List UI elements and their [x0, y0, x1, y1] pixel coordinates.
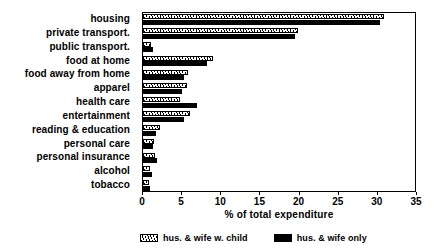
x-tick-label: 0: [139, 196, 145, 207]
bar-group: [143, 138, 415, 152]
x-tick-label: 30: [371, 196, 382, 207]
bar-solid: [143, 158, 157, 163]
category-label: personal care: [0, 137, 136, 151]
bar-solid: [143, 144, 153, 149]
bar-group: [143, 165, 415, 179]
x-tick: [377, 192, 378, 195]
legend-swatch-solid: [274, 234, 292, 242]
bar-hatched: [143, 28, 298, 33]
x-tick: [338, 192, 339, 195]
bar-hatched: [143, 42, 151, 47]
x-tick: [181, 192, 182, 195]
legend-label-hatched: hus. & wife w. child: [163, 233, 248, 243]
bar-solid: [143, 20, 380, 25]
bar-group: [143, 41, 415, 55]
category-label: entertainment: [0, 109, 136, 123]
bar-hatched: [143, 97, 180, 102]
category-label: tobacco: [0, 178, 136, 192]
chart-legend: hus. & wife w. child hus. & wife only: [140, 231, 420, 245]
legend-entry-hus-wife-only: hus. & wife only: [274, 233, 367, 243]
legend-entry-hus-wife-w-child: hus. & wife w. child: [140, 233, 248, 243]
bar-hatched: [143, 56, 213, 61]
bar-solid: [143, 34, 295, 39]
x-axis: 05101520253035: [142, 192, 416, 198]
x-axis-title: % of total expenditure: [142, 209, 416, 220]
expenditure-bar-chart: housingprivate transport.public transpor…: [0, 0, 434, 251]
bar-hatched: [143, 180, 149, 185]
bar-group: [143, 179, 415, 193]
bar-group: [143, 68, 415, 82]
bar-group: [143, 27, 415, 41]
x-tick: [142, 192, 143, 195]
bar-group: [143, 55, 415, 69]
bar-solid: [143, 103, 197, 108]
bar-solid: [143, 172, 152, 177]
x-tick-label: 35: [410, 196, 421, 207]
bar-hatched: [143, 166, 150, 171]
x-tick-label: 5: [178, 196, 184, 207]
category-label: alcohol: [0, 164, 136, 178]
bar-group: [143, 96, 415, 110]
plot-area: [142, 12, 416, 192]
x-tick: [259, 192, 260, 195]
bar-solid: [143, 186, 150, 191]
category-axis: housingprivate transport.public transpor…: [0, 12, 136, 192]
bar-hatched: [143, 14, 384, 19]
bar-hatched: [143, 70, 188, 75]
category-label: food at home: [0, 54, 136, 68]
bar-solid: [143, 75, 184, 80]
bar-hatched: [143, 125, 160, 130]
bar-hatched: [143, 83, 187, 88]
bar-hatched: [143, 153, 155, 158]
x-tick-label: 10: [215, 196, 226, 207]
bar-solid: [143, 89, 182, 94]
category-label: reading & education: [0, 123, 136, 137]
legend-label-solid: hus. & wife only: [297, 233, 367, 243]
bar-hatched: [143, 139, 154, 144]
bar-group: [143, 82, 415, 96]
category-label: health care: [0, 95, 136, 109]
category-label: private transport.: [0, 26, 136, 40]
category-label: personal insurance: [0, 150, 136, 164]
bar-hatched: [143, 111, 190, 116]
x-tick-label: 15: [254, 196, 265, 207]
bar-solid: [143, 47, 153, 52]
bar-solid: [143, 61, 207, 66]
bar-solid: [143, 117, 184, 122]
x-tick-label: 25: [332, 196, 343, 207]
bar-group: [143, 151, 415, 165]
bar-group: [143, 124, 415, 138]
category-label: public transport.: [0, 40, 136, 54]
x-tick: [220, 192, 221, 195]
x-tick: [299, 192, 300, 195]
bars-layer: [143, 13, 415, 191]
x-tick: [416, 192, 417, 195]
bar-solid: [143, 131, 156, 136]
category-label: food away from home: [0, 67, 136, 81]
category-label: housing: [0, 12, 136, 26]
x-tick-label: 20: [293, 196, 304, 207]
legend-swatch-hatched: [140, 234, 158, 242]
category-label: apparel: [0, 81, 136, 95]
bar-group: [143, 13, 415, 27]
bar-group: [143, 110, 415, 124]
